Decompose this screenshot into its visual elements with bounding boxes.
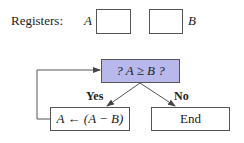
no-label: No: [174, 89, 189, 104]
decision-box: ? A ≥ B ?: [101, 59, 180, 83]
decision-text: ? A ≥ B ?: [116, 63, 165, 79]
register-b-box: [149, 9, 183, 34]
register-b-name: B: [188, 13, 196, 29]
action-text: A ← (A − B): [57, 111, 124, 127]
end-text: End: [180, 111, 201, 127]
register-a-box: [96, 9, 131, 34]
yes-label: Yes: [86, 89, 103, 104]
register-a-name: A: [84, 13, 92, 29]
end-box: End: [151, 107, 230, 131]
action-box: A ← (A − B): [50, 107, 130, 131]
registers-label: Registers:: [11, 13, 63, 29]
